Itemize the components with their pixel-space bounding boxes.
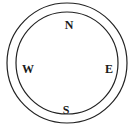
compass-diagram: N W E S <box>0 0 130 124</box>
north-label: N <box>65 18 74 32</box>
east-label: E <box>105 62 113 76</box>
south-label: S <box>63 103 70 117</box>
west-label: W <box>22 62 34 76</box>
